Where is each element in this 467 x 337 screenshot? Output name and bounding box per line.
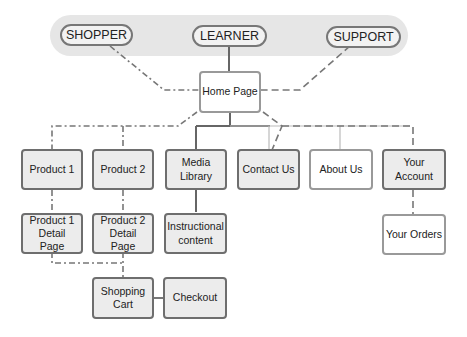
- node-product-1-detail[interactable]: Product 1 Detail Page: [21, 213, 83, 254]
- persona-support: SUPPORT: [326, 26, 401, 48]
- persona-shopper: SHOPPER: [60, 24, 133, 46]
- node-about-us[interactable]: About Us: [309, 149, 373, 190]
- node-your-orders[interactable]: Your Orders: [382, 214, 446, 255]
- node-home-page[interactable]: Home Page: [199, 71, 261, 113]
- node-contact-us[interactable]: Contact Us: [237, 149, 300, 190]
- persona-learner: LEARNER: [192, 25, 267, 47]
- node-instructional-content[interactable]: Instructional content: [164, 213, 227, 254]
- node-shopping-cart[interactable]: Shopping Cart: [92, 277, 154, 319]
- node-media-library[interactable]: Media Library: [165, 149, 227, 190]
- node-product-2-detail[interactable]: Product 2 Detail Page: [92, 213, 154, 254]
- node-checkout[interactable]: Checkout: [163, 277, 227, 319]
- node-product-2[interactable]: Product 2: [92, 149, 154, 190]
- node-product-1[interactable]: Product 1: [21, 149, 83, 190]
- node-your-account[interactable]: Your Account: [382, 149, 446, 190]
